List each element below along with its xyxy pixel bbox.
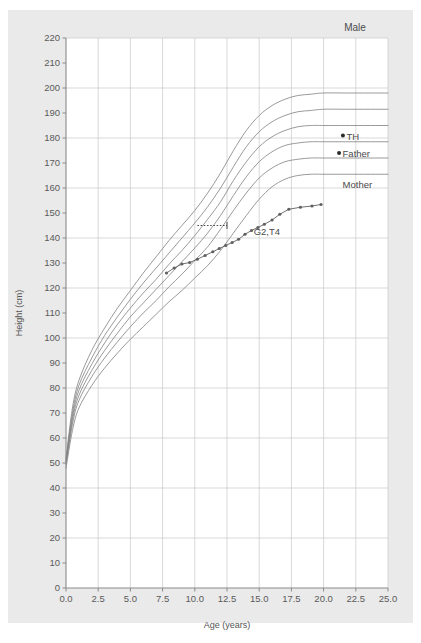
y-tick-label: 90 [49, 357, 60, 368]
x-tick-label: 7.5 [156, 593, 169, 604]
growth-chart-figure: 0102030405060708090100110120130140150160… [0, 0, 421, 643]
x-tick-label: 25.0 [379, 593, 398, 604]
panel-title: Male [344, 22, 366, 33]
x-tick-label: 15.0 [250, 593, 269, 604]
y-tick-label: 180 [44, 132, 60, 143]
x-tick-label: 2.5 [92, 593, 105, 604]
patient-data-point [299, 206, 302, 209]
annotation-marker-father [337, 151, 341, 155]
x-tick-label: 22.5 [347, 593, 366, 604]
x-tick-label: 20.0 [314, 593, 333, 604]
y-tick-label: 220 [44, 32, 60, 43]
y-tick-label: 0 [55, 582, 60, 593]
y-tick-label: 150 [44, 207, 60, 218]
y-tick-label: 10 [49, 557, 60, 568]
patient-data-point [218, 247, 221, 250]
patient-data-point [211, 250, 214, 253]
annotation-label-patient: G2,T4 [254, 226, 280, 237]
annotation-label-th: TH [346, 131, 359, 142]
patient-data-point [310, 204, 313, 207]
patient-data-point [173, 266, 176, 269]
patient-data-point [165, 271, 168, 274]
growth-chart-root: 0102030405060708090100110120130140150160… [0, 0, 421, 643]
annotation-label-father: Father [343, 148, 370, 159]
y-tick-label: 20 [49, 532, 60, 543]
patient-data-point [224, 244, 227, 247]
patient-data-point [319, 203, 322, 206]
y-tick-label: 70 [49, 407, 60, 418]
y-tick-label: 30 [49, 507, 60, 518]
y-tick-label: 60 [49, 432, 60, 443]
y-tick-label: 170 [44, 157, 60, 168]
y-tick-label: 100 [44, 332, 60, 343]
patient-data-point [196, 258, 199, 261]
x-tick-label: 17.5 [282, 593, 301, 604]
x-tick-label: 5.0 [124, 593, 137, 604]
patient-data-point [287, 208, 290, 211]
y-tick-label: 160 [44, 182, 60, 193]
y-tick-label: 140 [44, 232, 60, 243]
patient-data-point [188, 261, 191, 264]
y-tick-label: 110 [45, 307, 60, 318]
y-tick-label: 80 [49, 382, 60, 393]
x-tick-label: 12.5 [218, 593, 237, 604]
patient-data-point [237, 238, 240, 241]
patient-data-point [278, 213, 281, 216]
y-tick-label: 210 [44, 57, 60, 68]
y-tick-label: 200 [44, 82, 60, 93]
patient-data-point [204, 254, 207, 257]
y-tick-label: 130 [44, 257, 60, 268]
y-axis-title: Height (cm) [14, 290, 24, 337]
patient-data-point [243, 233, 246, 236]
y-tick-label: 50 [49, 457, 60, 468]
x-tick-label: 10.0 [186, 593, 205, 604]
y-tick-label: 120 [44, 282, 60, 293]
x-tick-label: 0.0 [59, 593, 72, 604]
patient-data-point [270, 218, 273, 221]
y-tick-label: 40 [49, 482, 60, 493]
patient-data-point [180, 262, 183, 265]
annotation-label-mother: Mother [343, 179, 373, 190]
patient-data-point [250, 229, 253, 232]
patient-data-point [231, 241, 234, 244]
x-axis-title: Age (years) [204, 620, 251, 630]
annotation-marker-th [341, 134, 345, 138]
y-tick-label: 190 [44, 107, 60, 118]
